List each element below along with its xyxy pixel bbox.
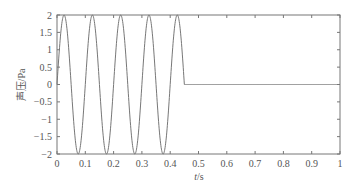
y-axis-label: 声压/Pa [15, 68, 27, 101]
y-tick-label: −2 [41, 149, 52, 160]
y-tick-label: 0.5 [40, 62, 53, 73]
y-tick-label: −1.5 [34, 131, 52, 142]
chart: 00.10.20.30.40.50.60.70.80.91 21.510.50−… [0, 0, 361, 183]
signal-line [57, 15, 340, 154]
y-tick-label: 1 [47, 44, 52, 55]
x-tick-label: 0.7 [249, 158, 262, 169]
x-axis-label: t/s [194, 171, 204, 182]
y-tick-label: 1.5 [40, 27, 53, 38]
x-tick-label: 0.8 [277, 158, 290, 169]
x-tick-label: 0.6 [221, 158, 234, 169]
y-tick-label: 0 [47, 79, 52, 90]
x-tick-label: 0.9 [305, 158, 318, 169]
x-tick-label: 1 [338, 158, 343, 169]
y-tick-label: −0.5 [34, 96, 52, 107]
x-axis-ticks: 00.10.20.30.40.50.60.70.80.91 [55, 15, 343, 169]
x-tick-label: 0.3 [136, 158, 149, 169]
x-tick-label: 0.5 [192, 158, 205, 169]
y-tick-label: 2 [47, 10, 52, 21]
x-tick-label: 0 [55, 158, 60, 169]
x-tick-label: 0.4 [164, 158, 177, 169]
y-tick-label: −1 [41, 114, 52, 125]
plot-area [57, 15, 340, 154]
x-tick-label: 0.1 [79, 158, 92, 169]
x-tick-label: 0.2 [107, 158, 120, 169]
